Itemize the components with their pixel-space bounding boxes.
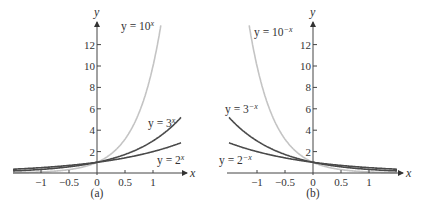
y-tick-label: 6 <box>90 103 96 115</box>
y-tick-label: 4 <box>90 124 96 136</box>
label-2x-a: y = 2x <box>157 153 185 167</box>
x-axis-label-a: x <box>189 166 196 180</box>
panel-b: x y −1−0.500.51 24681012 y = 10−x y = 3−… <box>219 5 412 200</box>
y-tick-label: 10 <box>300 60 312 72</box>
caption-b: (b) <box>306 187 320 200</box>
label-3x-b: y = 3−x <box>225 102 258 116</box>
label-3x-a: y = 3x <box>148 116 176 130</box>
y-tick-label: 8 <box>90 81 96 93</box>
y-tick-label: 12 <box>300 39 311 51</box>
y-axis-label-a: y <box>93 5 100 19</box>
y-ticks-b: 24681012 <box>300 39 317 158</box>
label-2x-b: y = 2−x <box>219 153 252 167</box>
x-tick-label: −0.5 <box>275 176 295 188</box>
y-ticks-a: 24681012 <box>84 39 101 158</box>
y-tick-label: 4 <box>306 124 312 136</box>
y-tick-label: 2 <box>90 146 96 158</box>
x-tick-label: 1 <box>150 176 156 188</box>
x-tick-label: −1 <box>251 176 263 188</box>
label-10x-b: y = 10−x <box>254 25 293 39</box>
label-10x-a: y = 10x <box>121 19 155 33</box>
x-tick-label: 1 <box>366 176 372 188</box>
x-axis-label-b: x <box>405 166 412 180</box>
x-tick-label: −1 <box>35 176 47 188</box>
panel-a: x y −1−0.500.51 24681012 y = 10x y = 3x … <box>13 5 196 200</box>
y-tick-label: 10 <box>84 60 96 72</box>
caption-a: (a) <box>91 187 104 200</box>
y-tick-label: 2 <box>306 146 312 158</box>
y-tick-label: 12 <box>84 39 95 51</box>
x-tick-label: −0.5 <box>59 176 79 188</box>
figure: x y −1−0.500.51 24681012 y = 10x y = 3x … <box>0 0 422 214</box>
x-tick-label: 0.5 <box>118 176 132 188</box>
curve-y-10-x <box>249 25 397 172</box>
x-tick-label: 0.5 <box>334 176 348 188</box>
y-tick-label: 6 <box>306 103 312 115</box>
y-tick-label: 8 <box>306 81 312 93</box>
y-axis-label-b: y <box>309 5 316 19</box>
